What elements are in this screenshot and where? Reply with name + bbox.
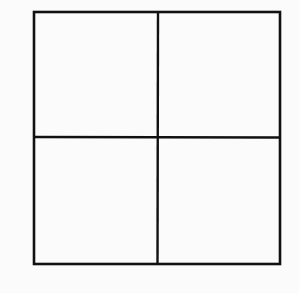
horizontal-divider xyxy=(34,137,280,138)
diagram-canvas xyxy=(0,0,299,293)
grid-cell-bottom-left xyxy=(34,137,158,264)
grid-cell-top-right xyxy=(158,12,280,137)
grid-cell-top-left xyxy=(34,12,158,137)
grid-cell-bottom-right xyxy=(158,137,280,264)
grid-diagram xyxy=(0,0,299,293)
